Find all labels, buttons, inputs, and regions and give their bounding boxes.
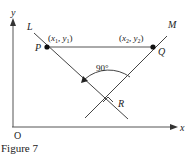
line-m-label: M xyxy=(167,19,177,30)
point-p-coords: (x1, y1) xyxy=(48,33,73,44)
figure-caption: Figure 7 xyxy=(1,142,38,154)
point-q-coords: (x2, y2) xyxy=(119,33,144,44)
x-axis xyxy=(12,124,178,130)
point-q xyxy=(150,44,155,49)
x-axis-label: x xyxy=(179,122,185,133)
y-axis-label: y xyxy=(10,7,16,18)
x-axis-arrow-icon xyxy=(170,124,178,130)
point-r-label: R xyxy=(117,98,124,109)
point-p-label: P xyxy=(34,42,41,53)
figure-7-diagram: y x O L M P Q R (x1, y1) (x2, y2) 90° Fi… xyxy=(0,0,192,157)
y-axis xyxy=(10,18,16,127)
point-q-label: Q xyxy=(158,46,166,57)
origin-label: O xyxy=(14,130,21,141)
line-l-label: L xyxy=(26,21,33,32)
angle-label: 90° xyxy=(96,63,109,73)
right-angle-marker-q xyxy=(116,79,120,83)
point-p xyxy=(44,44,49,49)
y-axis-arrow-icon xyxy=(10,18,16,26)
